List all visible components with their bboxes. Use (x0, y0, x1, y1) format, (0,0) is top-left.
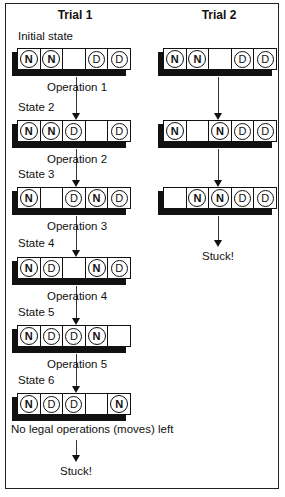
n-token-icon: N (88, 259, 106, 277)
n-token-icon: N (166, 50, 184, 68)
n-token-icon: N (188, 50, 206, 68)
d-token-icon: D (234, 190, 251, 207)
n-token-icon: N (20, 189, 38, 207)
cell: D (232, 49, 255, 69)
operation-label: Operation 2 (17, 153, 137, 165)
d-token-icon: D (111, 260, 128, 277)
n-token-icon: N (20, 50, 38, 68)
n-token-icon: N (20, 327, 38, 345)
state-row: NNDD (163, 120, 277, 142)
n-token-icon: N (211, 189, 229, 207)
cell-strip: NNDD (163, 187, 277, 209)
connector-line (218, 216, 219, 241)
state-row: NNDD (163, 187, 277, 209)
n-token-icon: N (42, 50, 60, 68)
d-token-icon: D (65, 190, 82, 207)
state-label: State 5 (18, 306, 54, 318)
n-token-icon: N (110, 395, 128, 413)
cell: N (18, 49, 41, 69)
cell (63, 49, 86, 69)
trial-1-title: Trial 1 (20, 8, 130, 22)
n-token-icon: N (188, 189, 206, 207)
cell: D (232, 121, 255, 141)
cell-strip: NDDN (17, 325, 131, 347)
cell-strip: NNDD (17, 48, 131, 70)
d-token-icon: D (111, 123, 128, 140)
cell-strip: NNDD (163, 48, 277, 70)
d-token-icon: D (43, 396, 60, 413)
stuck-label: Stuck! (60, 465, 92, 477)
n-token-icon: N (20, 122, 38, 140)
operation-label: Operation 3 (17, 220, 137, 232)
arrow-down-icon (72, 250, 80, 257)
cell: N (18, 394, 41, 414)
arrow-down-icon (72, 180, 80, 187)
connector-line (76, 440, 77, 456)
operation-label: Operation 1 (17, 81, 137, 93)
cell-strip: NDND (17, 187, 131, 209)
stuck-label: Stuck! (202, 250, 234, 262)
arrow-down-icon (214, 180, 222, 187)
cell: N (18, 326, 41, 346)
state-row: NDND (17, 187, 131, 209)
no-moves-note: No legal operations (moves) left (11, 423, 173, 435)
cell: D (41, 394, 64, 414)
state-row: NNDD (17, 120, 131, 142)
cell (41, 188, 64, 208)
cell (164, 188, 187, 208)
cell: D (254, 188, 276, 208)
state-row: NNDD (163, 48, 277, 70)
cell: N (187, 49, 210, 69)
cell (108, 326, 130, 346)
arrow-down-icon (214, 113, 222, 120)
cell: N (108, 394, 130, 414)
cell: D (254, 121, 276, 141)
cell: N (86, 188, 109, 208)
state-row: NNDD (17, 48, 131, 70)
cell: D (63, 326, 86, 346)
n-token-icon: N (88, 189, 106, 207)
cell: N (41, 121, 64, 141)
state-label: State 3 (18, 168, 54, 180)
n-token-icon: N (20, 395, 38, 413)
d-token-icon: D (88, 51, 105, 68)
cell: N (41, 49, 64, 69)
cell (86, 121, 109, 141)
cell: D (254, 49, 276, 69)
d-token-icon: D (234, 51, 251, 68)
cell: D (41, 326, 64, 346)
d-token-icon: D (65, 123, 82, 140)
trial-2-title: Trial 2 (164, 8, 274, 22)
d-token-icon: D (111, 190, 128, 207)
cell: D (108, 121, 130, 141)
arrow-down-icon (72, 386, 80, 393)
arrow-down-icon (72, 113, 80, 120)
cell: N (86, 258, 109, 278)
cell: N (164, 121, 187, 141)
state-row: NDND (17, 257, 131, 279)
cell: D (108, 188, 130, 208)
cell-strip: NNDD (163, 120, 277, 142)
cell: D (63, 188, 86, 208)
operation-label: Operation 5 (17, 358, 137, 370)
cell-strip: NDND (17, 257, 131, 279)
d-token-icon: D (43, 328, 60, 345)
cell (187, 121, 210, 141)
cell (63, 258, 86, 278)
cell (86, 394, 109, 414)
state-label: State 6 (18, 374, 54, 386)
d-token-icon: D (257, 190, 274, 207)
connector-line (218, 77, 219, 114)
d-token-icon: D (43, 260, 60, 277)
n-token-icon: N (166, 122, 184, 140)
n-token-icon: N (20, 259, 38, 277)
cell: N (18, 258, 41, 278)
state-row: NDDN (17, 393, 131, 415)
cell: N (164, 49, 187, 69)
d-token-icon: D (111, 51, 128, 68)
n-token-icon: N (88, 327, 106, 345)
arrow-down-icon (214, 240, 222, 247)
d-token-icon: D (65, 396, 82, 413)
cell: D (86, 49, 109, 69)
d-token-icon: D (257, 51, 274, 68)
